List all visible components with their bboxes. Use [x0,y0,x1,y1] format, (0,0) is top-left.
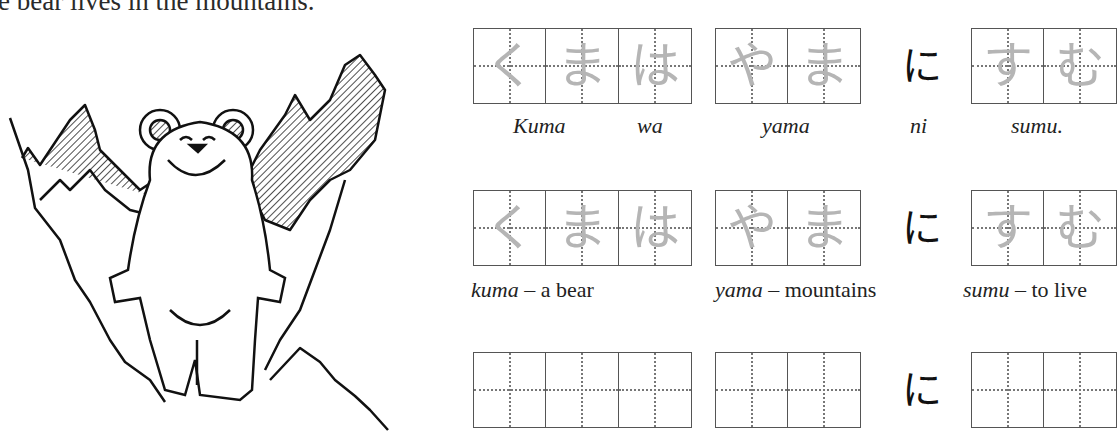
trace-char: や [716,191,787,265]
sumu-boxes: す む [971,28,1117,104]
trace-char: す [972,191,1043,265]
writing-cell[interactable]: む [1044,191,1116,265]
romaji-label: sumu. [1011,113,1063,139]
writing-cell[interactable]: ま [788,29,860,103]
writing-cell[interactable] [788,353,860,427]
writing-cell[interactable]: す [972,29,1044,103]
glossary-term: yama [715,277,763,302]
sumu-boxes [971,352,1117,428]
trace-char: ま [546,191,617,265]
trace-char: ま [788,29,860,103]
writing-cell[interactable]: は [619,191,691,265]
trace-char: む [1044,29,1116,103]
writing-cell[interactable]: く [474,191,546,265]
romaji-label: ni [910,113,927,139]
writing-cell[interactable]: や [716,29,788,103]
particle-ni: に [902,46,942,86]
glossary-kuma: kuma – a bear [471,277,594,303]
trace-char: は [619,191,691,265]
romaji-label: yama [762,113,810,139]
writing-cell[interactable]: ま [546,29,618,103]
trace-char: や [716,29,787,103]
writing-cell[interactable] [546,353,618,427]
writing-cell[interactable]: す [972,191,1044,265]
kuma-wa-boxes: く ま は [473,190,692,266]
particle-ni: に [902,370,942,410]
trace-char: ま [546,29,617,103]
glossary-yama: yama – mountains [715,277,876,303]
sentence-title: e bear lives in the mountains. [0,0,314,17]
yama-boxes [715,352,861,428]
writing-cell[interactable] [716,353,788,427]
glossary-term: kuma [471,277,519,302]
trace-char: く [474,191,545,265]
trace-char: ま [788,191,860,265]
writing-cell[interactable]: く [474,29,546,103]
writing-cell[interactable]: ま [546,191,618,265]
writing-cell[interactable]: や [716,191,788,265]
glossary-term: sumu [963,277,1009,302]
sumu-boxes: す む [971,190,1117,266]
yama-boxes: や ま [715,28,861,104]
trace-char: く [474,29,545,103]
writing-cell[interactable] [474,353,546,427]
trace-char: す [972,29,1043,103]
glossary-sumu: sumu – to live [963,277,1087,303]
bear-mountains-illustration [0,40,400,446]
writing-cell[interactable] [619,353,691,427]
writing-cell[interactable] [1044,353,1116,427]
kuma-wa-boxes [473,352,692,428]
glossary-meaning: – a bear [519,277,594,302]
particle-ni: に [902,208,942,248]
romaji-label: Kuma [513,113,566,139]
glossary-meaning: – mountains [763,277,877,302]
trace-char: む [1044,191,1116,265]
trace-char: は [619,29,691,103]
yama-boxes: や ま [715,190,861,266]
writing-cell[interactable]: は [619,29,691,103]
writing-cell[interactable]: む [1044,29,1116,103]
writing-cell[interactable]: ま [788,191,860,265]
writing-cell[interactable] [972,353,1044,427]
kuma-wa-boxes: く ま は [473,28,692,104]
glossary-meaning: – to live [1009,277,1087,302]
romaji-label: wa [637,113,663,139]
